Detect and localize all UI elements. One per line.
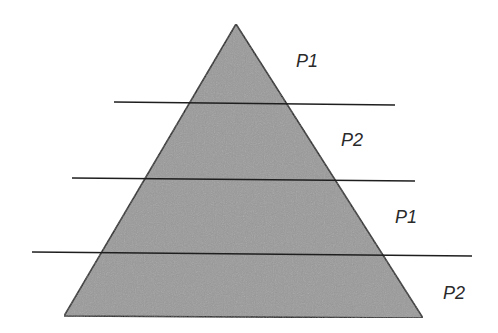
- layer-label-4: P2: [443, 284, 465, 302]
- pyramid-svg: [0, 0, 498, 333]
- pyramid-triangle: [64, 24, 423, 318]
- layer-label-2: P2: [341, 131, 363, 149]
- layer-label-3: P1: [395, 208, 417, 226]
- layer-label-1: P1: [296, 52, 318, 70]
- pyramid-diagram: P1 P2 P1 P2: [0, 0, 498, 333]
